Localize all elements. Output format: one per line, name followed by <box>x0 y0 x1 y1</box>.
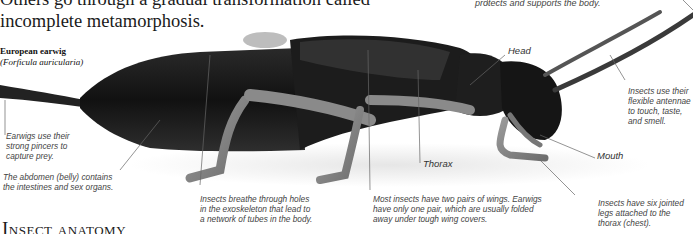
note-antennae: Insects use their flexible antennae to t… <box>628 86 691 126</box>
specimen-caption: European earwig (Forficula auricularia) <box>0 46 83 68</box>
label-mouth: Mouth <box>597 150 623 161</box>
label-head: Head <box>508 45 531 56</box>
section-title: Insect anatomy <box>2 218 126 234</box>
earwig-illustration <box>0 0 693 234</box>
note-pincers: Earwigs use their strong pincers to capt… <box>6 131 70 161</box>
note-wings: Most insects have two pairs of wings. Ea… <box>373 194 542 224</box>
latin-name: (Forficula auricularia) <box>0 57 83 68</box>
label-thorax: Thorax <box>423 158 453 169</box>
note-abdomen: The abdomen (belly) contains the intesti… <box>3 172 113 192</box>
common-name: European earwig <box>0 46 83 57</box>
note-legs: Insects have six jointed legs attached t… <box>598 198 684 228</box>
note-breathing: Insects breathe through holes in the exo… <box>200 194 312 224</box>
